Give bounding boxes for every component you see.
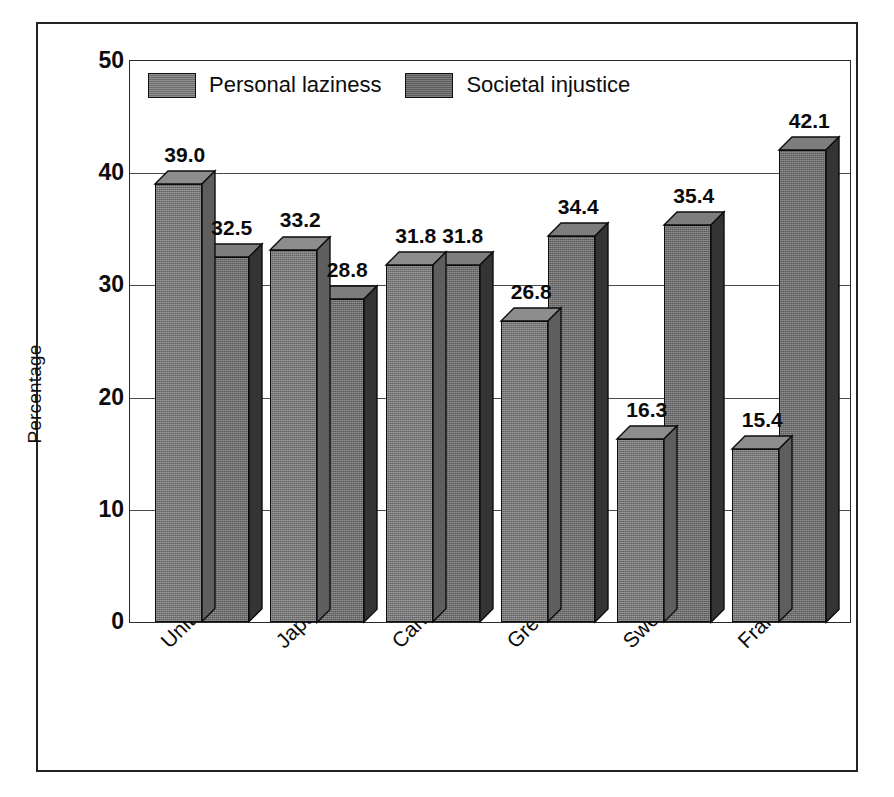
bar-value-label: 39.0 <box>164 143 205 167</box>
bar-front-face <box>270 250 317 623</box>
y-tick-label: 30 <box>78 271 124 298</box>
legend-entry[interactable]: Personal laziness <box>148 72 381 98</box>
bar-united-states-personal-laziness[interactable] <box>155 184 202 622</box>
bar-front-face <box>732 449 779 622</box>
bar-value-label: 26.8 <box>511 280 552 304</box>
bar-value-label: 42.1 <box>789 109 830 133</box>
bar-front-face <box>155 184 202 622</box>
legend-label: Personal laziness <box>209 72 381 98</box>
bar-great-britain-personal-laziness[interactable] <box>501 321 548 622</box>
bar-france-personal-laziness[interactable] <box>732 449 779 622</box>
bar-sweden-personal-laziness[interactable] <box>617 439 664 622</box>
bar-value-label: 32.5 <box>211 216 252 240</box>
y-tick-label: 40 <box>78 159 124 186</box>
y-axis-tick-labels: 50403020100 <box>68 24 124 770</box>
bar-value-label: 16.3 <box>626 398 667 422</box>
bar-value-label: 31.8 <box>442 224 483 248</box>
bar-front-face <box>386 265 433 622</box>
bar-value-label: 35.4 <box>673 184 714 208</box>
bar-front-face <box>501 321 548 622</box>
y-tick-label: 20 <box>78 383 124 410</box>
bar-value-label: 28.8 <box>327 258 368 282</box>
gridline <box>130 173 850 174</box>
bar-value-label: 31.8 <box>395 224 436 248</box>
y-tick-label: 0 <box>78 608 124 635</box>
figure-frame: Percentage 50403020100 39.032.533.228.83… <box>36 22 858 772</box>
legend-entry[interactable]: Societal injustice <box>405 72 630 98</box>
bar-canada-personal-laziness[interactable] <box>386 265 433 622</box>
y-axis-title: Percentage <box>24 294 46 494</box>
y-tick-label: 50 <box>78 47 124 74</box>
bar-value-label: 15.4 <box>742 408 783 432</box>
y-tick-label: 10 <box>78 495 124 522</box>
bar-japan-personal-laziness[interactable] <box>270 250 317 623</box>
bar-front-face <box>617 439 664 622</box>
bar-value-label: 34.4 <box>558 195 599 219</box>
legend-swatch-icon <box>405 73 453 98</box>
legend-swatch-icon <box>148 73 196 98</box>
chart-legend: Personal lazinessSocietal injustice <box>148 72 630 98</box>
plot-area: 39.032.533.228.831.831.826.834.416.335.4… <box>129 60 851 623</box>
legend-label: Societal injustice <box>466 72 630 98</box>
bar-value-label: 33.2 <box>280 208 321 232</box>
